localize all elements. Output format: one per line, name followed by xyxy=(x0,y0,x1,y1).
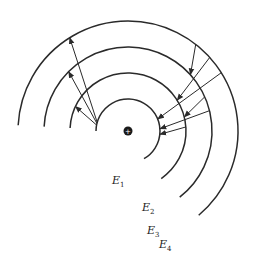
energy-level-e4 xyxy=(18,21,238,215)
level-label-e4: E4 xyxy=(158,238,172,253)
energy-level-diagram: + E1E2E3E4 xyxy=(0,0,255,254)
transition-arrow-e3-to-e1 xyxy=(160,111,210,129)
level-label-e3: E3 xyxy=(146,224,160,239)
transition-arrow-e4-to-e2 xyxy=(177,57,210,100)
level-label-e1: E1 xyxy=(111,174,125,189)
energy-level-e3 xyxy=(44,47,212,197)
nucleus: + xyxy=(124,127,133,136)
nucleus-charge: + xyxy=(125,128,131,136)
transition-arrow-e2-to-e1 xyxy=(160,127,186,134)
level-label-e2: E2 xyxy=(141,201,155,216)
transition-arrow-e4-to-e3 xyxy=(190,44,195,74)
